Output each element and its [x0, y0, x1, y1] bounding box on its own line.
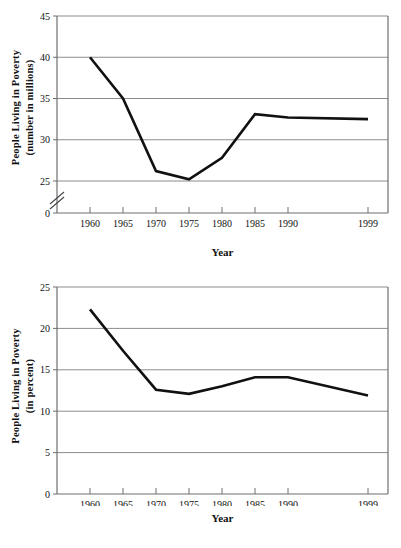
- y-tick-label-10: 10: [40, 406, 50, 417]
- y-tick-label-0: 0: [45, 489, 50, 500]
- y-tick-label-30: 30: [40, 134, 50, 145]
- y-tick-label-25: 25: [40, 176, 50, 187]
- x-tick-label-1975: 1975: [179, 499, 199, 506]
- y-tick-label-20: 20: [40, 323, 50, 334]
- x-tick-label-1980: 1980: [212, 499, 232, 506]
- x-tick-label-1999: 1999: [358, 499, 378, 506]
- y-tick-label-0: 0: [45, 208, 50, 219]
- x-tick-label-1980: 1980: [212, 218, 232, 229]
- y-tick-label-40: 40: [40, 52, 50, 63]
- x-tick-label-1985: 1985: [245, 499, 265, 506]
- x-tick-label-1999: 1999: [358, 218, 378, 229]
- y-tick-label-35: 35: [40, 93, 50, 104]
- y-axis-label-line2-top: (number in millions): [24, 10, 35, 205]
- y-tick-label-25: 25: [40, 282, 50, 293]
- x-axis-label-bottom: Year: [22, 512, 401, 524]
- plot-area-bottom: 0510152025196019651970197519801985199019…: [0, 274, 401, 506]
- x-tick-label-1970: 1970: [146, 499, 166, 506]
- y-axis-label-line1-bottom: People Living in Poverty: [10, 286, 21, 486]
- plot-area-top: 0253035404519601965197019751980198519901…: [0, 0, 401, 246]
- x-tick-label-1985: 1985: [245, 218, 265, 229]
- chart-poverty-number-millions: People Living in Poverty (number in mill…: [0, 0, 401, 274]
- chart-poverty-percent: People Living in Poverty (in percent) 05…: [0, 274, 401, 548]
- x-tick-label-1960: 1960: [80, 499, 100, 506]
- x-tick-label-1975: 1975: [179, 218, 199, 229]
- y-tick-label-5: 5: [45, 447, 50, 458]
- y-axis-label-line2-bottom: (in percent): [24, 286, 35, 486]
- y-axis-label-line1-top: People Living in Poverty: [10, 10, 21, 205]
- x-tick-label-1965: 1965: [113, 218, 133, 229]
- x-axis-label-top: Year: [22, 246, 401, 258]
- x-tick-label-1990: 1990: [278, 218, 298, 229]
- x-tick-label-1990: 1990: [278, 499, 298, 506]
- y-tick-label-45: 45: [40, 11, 50, 22]
- data-series-line: [90, 57, 368, 179]
- x-tick-label-1960: 1960: [80, 218, 100, 229]
- x-tick-label-1970: 1970: [146, 218, 166, 229]
- x-tick-label-1965: 1965: [113, 499, 133, 506]
- data-series-line: [90, 309, 368, 395]
- y-tick-label-15: 15: [40, 364, 50, 375]
